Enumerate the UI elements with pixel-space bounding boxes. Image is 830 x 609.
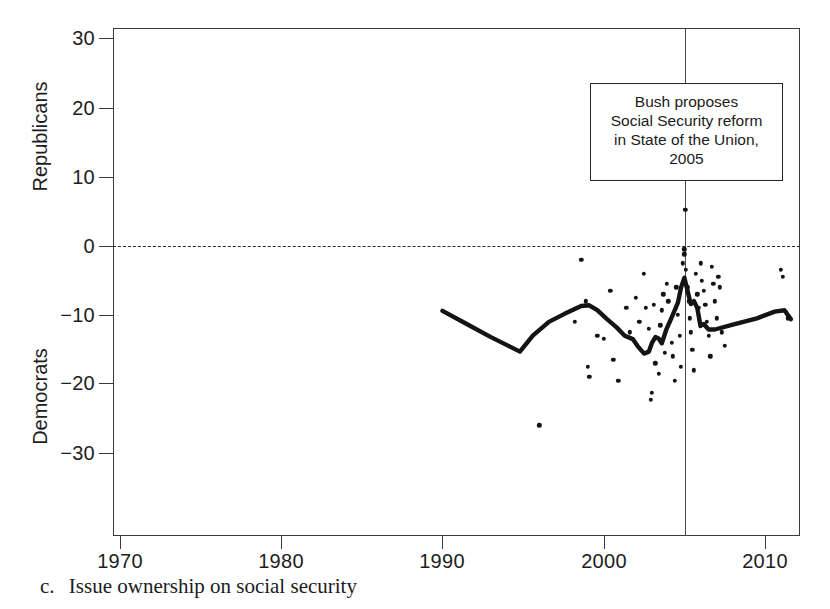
x-tick-label-1970: 1970 (97, 550, 143, 573)
annotation-line-1: Bush proposes (591, 92, 782, 111)
x-tick-1980 (281, 536, 282, 549)
x-tick-label-1990: 1990 (419, 550, 465, 573)
y-tick-label-30: 30 (72, 27, 95, 50)
y-tick-m20 (99, 383, 113, 384)
zero-reference-line (113, 246, 800, 247)
y-tick-30 (99, 38, 113, 39)
figure-caption: c. Issue ownership on social security (40, 574, 357, 599)
annotation-line-2: Social Security reform (591, 111, 782, 130)
y-tick-0 (99, 246, 113, 247)
caption-letter: c. (40, 574, 55, 598)
figure-panel: Republicans Democrats 30 20 10 0 −10 −20… (0, 0, 830, 609)
y-tick-label-0: 0 (84, 235, 95, 258)
y-tick-label-m20: −20 (60, 372, 95, 395)
annotation-line-4: 2005 (591, 149, 782, 168)
annotation-box: Bush proposes Social Security reform in … (590, 83, 783, 181)
caption-text: Issue ownership on social security (69, 574, 357, 598)
x-tick-1970 (120, 536, 121, 549)
y-tick-m30 (99, 453, 113, 454)
y-tick-20 (99, 108, 113, 109)
x-tick-label-1980: 1980 (258, 550, 304, 573)
x-tick-label-2000: 2000 (581, 550, 627, 573)
y-tick-label-20: 20 (72, 97, 95, 120)
x-tick-1990 (442, 536, 443, 549)
y-tick-label-10: 10 (72, 166, 95, 189)
x-tick-2010 (765, 536, 766, 549)
y-tick-label-m10: −10 (60, 304, 95, 327)
y-axis-label-democrats: Democrats (29, 317, 52, 477)
y-tick-label-m30: −30 (60, 442, 95, 465)
y-axis-label-republicans: Republicans (29, 57, 52, 217)
y-tick-m10 (99, 315, 113, 316)
x-tick-label-2010: 2010 (742, 550, 788, 573)
y-tick-10 (99, 177, 113, 178)
x-tick-2000 (604, 536, 605, 549)
annotation-line-3: in State of the Union, (591, 130, 782, 149)
